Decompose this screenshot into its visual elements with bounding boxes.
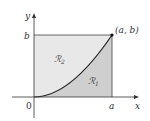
point-label: (a, b) — [115, 25, 139, 35]
y-axis-label: y — [24, 11, 31, 21]
point-a-b — [110, 33, 113, 36]
a-tick-label: a — [109, 101, 114, 111]
x-axis-arrow-icon — [134, 95, 139, 99]
diagram-canvas: y b (a, b) 0 a x ℛ2 ℛ1 — [0, 0, 150, 121]
b-tick-label: b — [24, 31, 30, 41]
y-axis-arrow-icon — [32, 13, 36, 18]
origin-label: 0 — [26, 101, 32, 111]
x-axis-label: x — [135, 101, 140, 111]
